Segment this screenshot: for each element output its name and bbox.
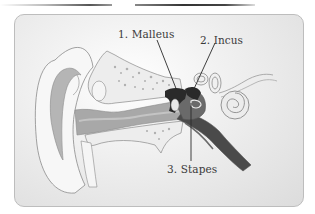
label-malleus: 1. Malleus	[118, 28, 174, 40]
top-decorative-line-left	[0, 4, 112, 6]
diagram-card: 1. Malleus 2. Incus 3. Stapes	[14, 14, 304, 207]
label-stapes: 3. Stapes	[167, 163, 217, 175]
label-incus: 2. Incus	[200, 34, 243, 46]
top-decorative-line-right	[135, 4, 255, 6]
cochlea	[221, 91, 249, 119]
ear-illustration	[15, 15, 303, 206]
